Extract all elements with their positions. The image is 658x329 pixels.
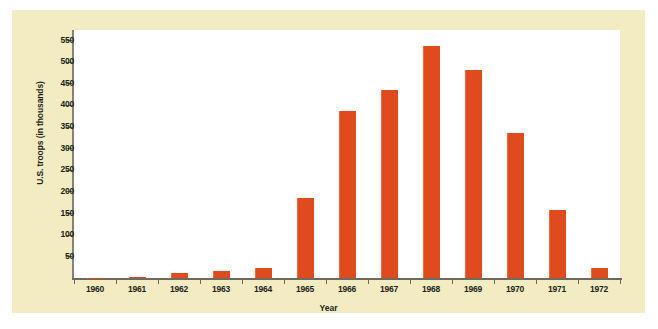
y-tick-label-row: 50: [12, 252, 74, 262]
x-tick-mark: [326, 280, 327, 284]
y-tick-label: 400: [40, 100, 74, 109]
y-tick-label: 500: [40, 57, 74, 66]
bar: [297, 198, 314, 278]
x-tick-mark: [200, 280, 201, 284]
y-tick-label: 450: [40, 79, 74, 88]
x-tick-label: 1966: [326, 285, 368, 294]
x-tick-mark: [74, 280, 75, 284]
x-tick-mark: [410, 280, 411, 284]
bar: [129, 277, 146, 278]
x-tick-label: 1970: [494, 285, 536, 294]
x-tick-mark: [242, 280, 243, 284]
bar: [255, 268, 272, 278]
bar: [381, 90, 398, 278]
bar: [87, 278, 104, 279]
x-tick-label: 1962: [158, 285, 200, 294]
x-tick-label: 1967: [368, 285, 410, 294]
x-tick-mark: [536, 280, 537, 284]
x-tick-mark: [452, 280, 453, 284]
x-tick-label: 1968: [410, 285, 452, 294]
y-tick-label: 150: [40, 209, 74, 218]
y-tick-label: 550: [40, 36, 74, 45]
x-tick-mark: [578, 280, 579, 284]
x-tick-label: 1964: [242, 285, 284, 294]
y-axis-line: [72, 30, 74, 280]
y-tick-label: 250: [40, 165, 74, 174]
y-tick-label: 300: [40, 144, 74, 153]
x-tick-mark: [158, 280, 159, 284]
y-tick-label: 100: [40, 230, 74, 239]
x-tick-label: 1960: [74, 285, 116, 294]
x-tick-mark: [368, 280, 369, 284]
x-axis-line: [72, 278, 622, 280]
bar: [507, 133, 524, 278]
y-tick-label: 350: [40, 122, 74, 131]
bar: [171, 273, 188, 278]
x-tick-label: 1972: [578, 285, 620, 294]
y-axis-title: U.S. troops (in thousands): [35, 43, 45, 223]
bar: [591, 268, 608, 278]
y-tick-label-row: 100: [12, 230, 74, 240]
x-tick-label: 1969: [452, 285, 494, 294]
x-tick-mark: [620, 280, 621, 284]
bar: [465, 70, 482, 278]
x-tick-mark: [284, 280, 285, 284]
y-tick-label: 50: [40, 252, 74, 261]
bar: [339, 111, 356, 278]
x-tick-label: 1961: [116, 285, 158, 294]
x-axis-title: Year: [12, 303, 645, 313]
x-tick-label: 1971: [536, 285, 578, 294]
x-tick-label: 1963: [200, 285, 242, 294]
x-tick-mark: [116, 280, 117, 284]
y-tick-label: 200: [40, 187, 74, 196]
x-tick-mark: [494, 280, 495, 284]
bar: [423, 46, 440, 278]
x-tick-label: 1965: [284, 285, 326, 294]
bar: [213, 271, 230, 278]
chart-panel: 55050045040035030025020015010050 U.S. tr…: [12, 10, 645, 313]
chart-figure: 55050045040035030025020015010050 U.S. tr…: [0, 0, 658, 329]
bar: [549, 210, 566, 278]
